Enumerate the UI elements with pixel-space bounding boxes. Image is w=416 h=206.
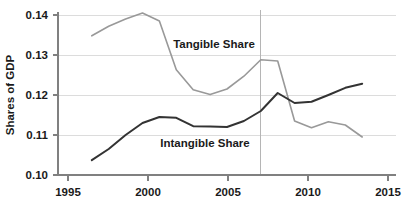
x-tick-label-1995: 1995 [55,186,81,198]
y-tick-label-0.14: 0.14 [26,9,49,21]
x-tick-labels: 1995 2000 2005 2010 2015 [55,186,401,198]
y-tick-marks [53,15,58,175]
y-tick-label-0.12: 0.12 [26,89,48,101]
series-annotation-tangible: Tangible Share [173,38,255,50]
line-chart: 0.14 0.13 0.12 0.11 0.10 1995 2000 2005 … [0,0,416,206]
gridlines [58,15,396,135]
y-tick-label-0.13: 0.13 [26,49,48,61]
x-tick-marks [68,175,388,181]
chart-figure: 0.14 0.13 0.12 0.11 0.10 1995 2000 2005 … [0,0,416,206]
series-line-tangible [92,13,362,137]
series-annotation-intangible: Intangible Share [160,137,249,149]
x-tick-label-2005: 2005 [215,186,241,198]
axes [58,12,396,175]
x-tick-label-2000: 2000 [135,186,161,198]
y-axis-title: Shares of GDP [4,54,16,135]
x-tick-label-2010: 2010 [295,186,321,198]
x-tick-label-2015: 2015 [375,186,401,198]
y-tick-labels: 0.14 0.13 0.12 0.11 0.10 [26,9,49,181]
y-tick-label-0.10: 0.10 [26,169,48,181]
y-tick-label-0.11: 0.11 [26,129,48,141]
